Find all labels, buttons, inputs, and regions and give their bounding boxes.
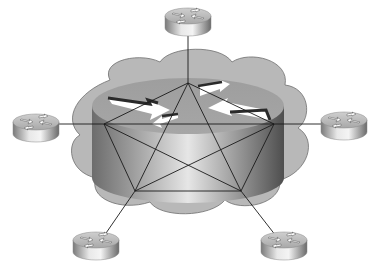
router-icon [165,8,211,36]
router-icon [321,112,367,140]
router-icon [261,232,307,260]
router-icon [13,114,59,142]
router-bottom-left[interactable] [73,232,119,260]
core-router[interactable] [92,78,284,203]
router-left[interactable] [13,114,59,142]
network-diagram [0,0,372,266]
router-icon [73,232,119,260]
router-right[interactable] [321,112,367,140]
router-bottom-right[interactable] [261,232,307,260]
router-top[interactable] [165,8,211,36]
